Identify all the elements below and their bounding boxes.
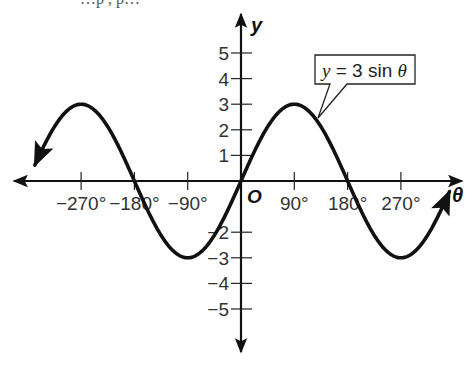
y-tick-label: 3 bbox=[218, 94, 229, 115]
y-tick-label: −4 bbox=[207, 273, 229, 294]
y-axis-label: y bbox=[250, 14, 263, 36]
y-tick-label: 1 bbox=[218, 145, 229, 166]
x-tick-label: −90° bbox=[168, 193, 208, 214]
cropped-top-text: …p , p… bbox=[80, 0, 140, 8]
y-tick-label: 4 bbox=[218, 69, 229, 90]
x-tick-label: −270° bbox=[56, 193, 106, 214]
sine-graph: …p , p… −270°−180°−90°90°180°270°54321−2… bbox=[0, 0, 475, 367]
origin-label: O bbox=[247, 186, 262, 207]
y-tick-label: −3 bbox=[207, 248, 229, 269]
callout-label: y = 3 sin θ bbox=[320, 60, 407, 81]
y-tick-label: −5 bbox=[207, 299, 229, 320]
x-tick-label: 90° bbox=[280, 193, 309, 214]
x-tick-label: −180° bbox=[109, 193, 159, 214]
y-tick-label: 5 bbox=[218, 43, 229, 64]
y-tick-label: 2 bbox=[218, 120, 229, 141]
x-tick-label: 270° bbox=[381, 193, 420, 214]
function-callout: y = 3 sin θ bbox=[315, 55, 415, 118]
x-axis-label-theta: θ bbox=[452, 184, 463, 206]
